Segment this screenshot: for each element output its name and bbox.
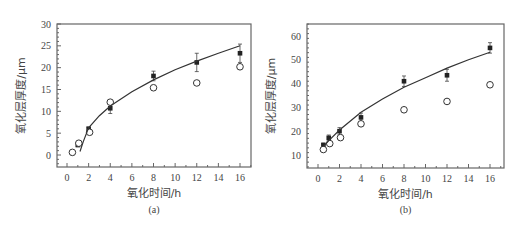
y-tick-label: 50 [291, 54, 301, 65]
x-tick-label: 14 [464, 173, 474, 184]
y-tick-label: 30 [291, 102, 301, 113]
data-point-open-circle [237, 63, 244, 70]
data-point-open-circle [358, 121, 365, 128]
data-point-filled-square [151, 74, 156, 79]
panel-b: 0246810121416102030405060氧化时间/h氧化层厚度/μm(… [264, 24, 504, 216]
data-point-filled-square [402, 79, 407, 84]
x-tick-label: 4 [108, 172, 113, 183]
x-axis-label: 氧化时间/h [127, 186, 182, 200]
x-tick-label: 16 [485, 173, 495, 184]
data-point-open-circle [193, 80, 200, 87]
x-tick-label: 12 [192, 172, 202, 183]
data-point-open-circle [326, 140, 333, 147]
x-tick-label: 14 [213, 172, 223, 183]
data-point-filled-square [488, 46, 493, 51]
data-point-open-circle [69, 149, 76, 156]
data-point-open-circle [444, 98, 451, 105]
data-point-open-circle [401, 106, 408, 113]
chart-figure: 0246810121416051015202530氧化时间/h氧化层厚度/μm(… [0, 0, 521, 229]
x-tick-label: 0 [65, 172, 70, 183]
x-tick-label: 0 [316, 173, 321, 184]
data-point-open-circle [487, 81, 494, 88]
data-point-open-circle [337, 134, 344, 141]
x-tick-label: 2 [337, 173, 342, 184]
y-tick-label: 60 [291, 31, 301, 42]
panel-label: (b) [400, 204, 412, 216]
y-tick-label: 25 [41, 40, 51, 51]
y-tick-label: 10 [41, 106, 51, 117]
y-tick-label: 10 [291, 150, 301, 161]
x-tick-label: 12 [442, 173, 452, 184]
y-tick-label: 5 [46, 128, 51, 139]
data-point-open-circle [320, 146, 327, 153]
plot-frame [307, 24, 504, 168]
panel-a: 0246810121416051015202530氧化时间/h氧化层厚度/μm(… [14, 19, 251, 217]
data-point-filled-square [238, 51, 243, 56]
x-tick-label: 8 [402, 173, 407, 184]
x-tick-label: 6 [129, 172, 134, 183]
y-tick-label: 15 [41, 84, 51, 95]
x-tick-label: 8 [151, 172, 156, 183]
plot-frame [57, 24, 251, 167]
fit-curve [323, 52, 490, 147]
data-point-open-circle [76, 140, 83, 147]
fit-curve [80, 46, 240, 152]
y-tick-label: 0 [46, 150, 51, 161]
data-point-filled-square [359, 115, 364, 120]
x-tick-label: 10 [421, 173, 431, 184]
panel-label: (a) [148, 204, 159, 216]
y-tick-label: 30 [41, 19, 51, 30]
x-tick-label: 16 [235, 172, 245, 183]
y-tick-label: 20 [291, 126, 301, 137]
data-point-open-circle [150, 84, 157, 91]
data-point-filled-square [445, 73, 450, 78]
y-tick-label: 20 [41, 62, 51, 73]
y-axis-label: 氧化层厚度/μm [264, 58, 278, 134]
x-tick-label: 10 [170, 172, 180, 183]
x-axis-label: 氧化时间/h [378, 187, 433, 201]
y-axis-label: 氧化层厚度/μm [14, 57, 28, 133]
y-tick-label: 40 [291, 78, 301, 89]
x-tick-label: 2 [86, 172, 91, 183]
x-tick-label: 6 [380, 173, 385, 184]
x-tick-label: 4 [359, 173, 364, 184]
